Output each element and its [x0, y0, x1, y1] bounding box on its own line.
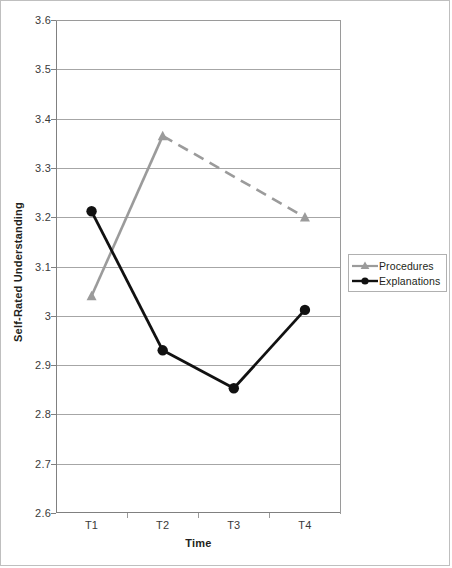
data-point-explanations-T4[interactable] [300, 305, 310, 315]
x-tick-mark [127, 513, 128, 518]
data-point-procedures-T4[interactable] [300, 212, 310, 222]
x-tick-label: T1 [62, 519, 122, 531]
series-line-explanations [92, 211, 163, 350]
series-line-procedures [163, 136, 305, 217]
data-point-explanations-T3[interactable] [229, 383, 239, 393]
x-axis-title: Time [56, 537, 341, 549]
data-point-procedures-T1[interactable] [87, 291, 97, 301]
legend-label-procedures: Procedures [379, 259, 434, 273]
x-tick-label: T2 [133, 519, 193, 531]
data-point-explanations-T1[interactable] [86, 206, 96, 216]
x-tick-mark [269, 513, 270, 518]
legend-label-explanations: Explanations [379, 274, 440, 288]
y-axis-title: Self-Rated Understanding [12, 192, 24, 352]
triangle-marker-icon [351, 259, 379, 273]
x-tick-label: T4 [275, 519, 335, 531]
series-line-explanations [234, 310, 305, 388]
legend: Procedures Explanations [348, 254, 447, 292]
circle-marker-icon [351, 274, 379, 288]
series-line-explanations [163, 350, 234, 388]
legend-item-procedures[interactable]: Procedures [351, 258, 443, 273]
series-line-procedures [92, 136, 163, 296]
data-point-explanations-T2[interactable] [157, 345, 167, 355]
chart-figure: 3.63.53.43.33.23.132.92.82.72.6 T1T2T3T4… [0, 0, 452, 568]
x-tick-mark [198, 513, 199, 518]
x-tick-label: T3 [204, 519, 264, 531]
data-point-procedures-T2[interactable] [158, 131, 168, 141]
legend-item-explanations[interactable]: Explanations [351, 273, 443, 288]
